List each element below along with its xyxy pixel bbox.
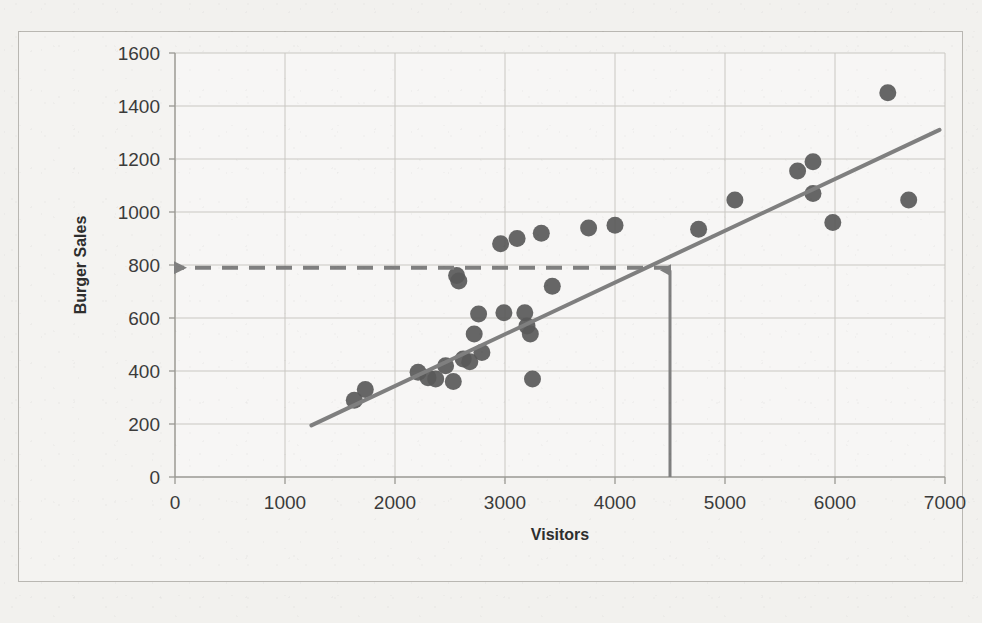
scatter-point bbox=[607, 217, 624, 234]
y-tick-label: 200 bbox=[128, 414, 160, 435]
scatter-point bbox=[492, 235, 509, 252]
scatter-point bbox=[495, 304, 512, 321]
x-axis-tick-labels: 0 1000 2000 3000 4000 5000 6000 7000 bbox=[170, 492, 966, 513]
scatter-point bbox=[824, 214, 841, 231]
chart-canvas: 1600 1400 1200 1000 800 600 400 200 0 0 … bbox=[0, 0, 982, 623]
y-tick-label: 1000 bbox=[118, 202, 160, 223]
scatter-point bbox=[509, 230, 526, 247]
x-tick-label: 7000 bbox=[924, 492, 966, 513]
scatter-point bbox=[544, 278, 561, 295]
x-tick-label: 4000 bbox=[594, 492, 636, 513]
scatter-point bbox=[805, 153, 822, 170]
x-tick-label: 5000 bbox=[704, 492, 746, 513]
y-tick-label: 1400 bbox=[118, 96, 160, 117]
scatter-point bbox=[466, 325, 483, 342]
x-tick-label: 0 bbox=[170, 492, 181, 513]
x-tick-label: 1000 bbox=[264, 492, 306, 513]
scatter-point bbox=[789, 162, 806, 179]
y-tick-label: 0 bbox=[149, 467, 160, 488]
scatter-chart-figure: 1600 1400 1200 1000 800 600 400 200 0 0 … bbox=[0, 0, 982, 623]
scatter-point bbox=[726, 192, 743, 209]
y-tick-label: 800 bbox=[128, 255, 160, 276]
y-axis-tick-labels: 1600 1400 1200 1000 800 600 400 200 0 bbox=[118, 43, 160, 488]
x-axis-tick-marks bbox=[175, 477, 945, 484]
x-axis-title: Visitors bbox=[531, 526, 590, 543]
scatter-point bbox=[533, 225, 550, 242]
scatter-point bbox=[580, 219, 597, 236]
scatter-point bbox=[450, 272, 467, 289]
x-tick-label: 6000 bbox=[814, 492, 856, 513]
scatter-point bbox=[445, 373, 462, 390]
y-axis-tick-marks bbox=[169, 53, 175, 477]
scatter-point bbox=[524, 370, 541, 387]
scatter-point bbox=[522, 325, 539, 342]
y-tick-label: 600 bbox=[128, 308, 160, 329]
x-tick-label: 2000 bbox=[374, 492, 416, 513]
x-tick-label: 3000 bbox=[484, 492, 526, 513]
scatter-point bbox=[900, 192, 917, 209]
y-axis-title: Burger Sales bbox=[72, 216, 89, 315]
y-tick-label: 400 bbox=[128, 361, 160, 382]
scatter-point bbox=[470, 306, 487, 323]
scatter-point bbox=[879, 84, 896, 101]
y-tick-label: 1600 bbox=[118, 43, 160, 64]
scatter-point bbox=[690, 221, 707, 238]
y-tick-label: 1200 bbox=[118, 149, 160, 170]
